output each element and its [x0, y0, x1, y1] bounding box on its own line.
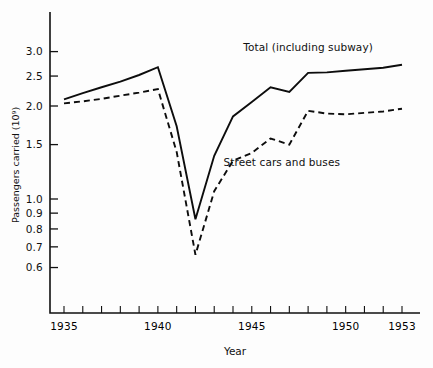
y-axis-title: Passengers carried (10⁹) — [10, 107, 21, 223]
x-tick-label: 1945 — [238, 320, 266, 332]
y-tick-label: 0.9 — [26, 207, 43, 219]
series-line-total — [64, 65, 402, 220]
x-tick-label: 1953 — [388, 320, 416, 332]
x-tick-label: 1940 — [144, 320, 172, 332]
y-tick-label: 2.5 — [26, 70, 43, 82]
series-label-street-cars-buses: Street cars and buses — [224, 156, 341, 168]
y-tick-label: 1.5 — [26, 138, 43, 150]
y-tick-label: 0.8 — [26, 223, 43, 235]
x-axis-tick-labels: 19351940194519501953 — [50, 320, 416, 332]
y-axis-tick-marks — [50, 52, 58, 268]
y-tick-label: 1.0 — [26, 193, 43, 205]
semilog-line-chart: 3.02.52.01.51.00.90.80.70.6 193519401945… — [0, 0, 433, 368]
x-tick-label: 1950 — [332, 320, 360, 332]
series-line-street-cars-buses — [64, 89, 402, 255]
series-label-total: Total (including subway) — [242, 41, 373, 53]
x-axis-tick-marks — [64, 306, 402, 313]
y-tick-label: 0.7 — [26, 241, 43, 253]
x-tick-label: 1935 — [50, 320, 78, 332]
y-tick-label: 0.6 — [26, 261, 43, 273]
y-axis-tick-labels: 3.02.52.01.51.00.90.80.70.6 — [26, 45, 43, 273]
chart-figure: 3.02.52.01.51.00.90.80.70.6 193519401945… — [0, 0, 433, 368]
x-axis-title: Year — [223, 345, 247, 357]
y-tick-label: 3.0 — [26, 45, 43, 57]
y-tick-label: 2.0 — [26, 100, 43, 112]
